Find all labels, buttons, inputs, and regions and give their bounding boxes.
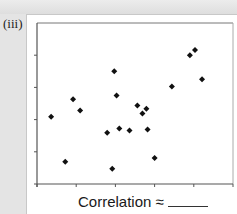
- data-point: [77, 108, 83, 114]
- scatter-plot: [0, 0, 237, 214]
- data-point: [145, 127, 151, 133]
- caption-text: Correlation ≈: [78, 193, 164, 210]
- data-point: [152, 155, 158, 161]
- data-point: [70, 96, 76, 102]
- data-point: [114, 92, 120, 98]
- data-point: [127, 128, 133, 134]
- data-points: [48, 47, 205, 172]
- data-point: [109, 166, 115, 172]
- data-point: [134, 102, 140, 108]
- data-point: [111, 68, 117, 74]
- data-point: [104, 130, 110, 136]
- correlation-caption: Correlation ≈: [78, 193, 208, 210]
- data-point: [187, 52, 193, 58]
- data-point: [199, 76, 205, 82]
- answer-blank[interactable]: [168, 196, 208, 207]
- data-point: [62, 159, 68, 165]
- data-point: [139, 110, 145, 116]
- data-point: [116, 126, 122, 132]
- data-point: [48, 114, 54, 120]
- data-point: [192, 47, 198, 53]
- data-point: [169, 83, 175, 89]
- data-point: [143, 106, 149, 112]
